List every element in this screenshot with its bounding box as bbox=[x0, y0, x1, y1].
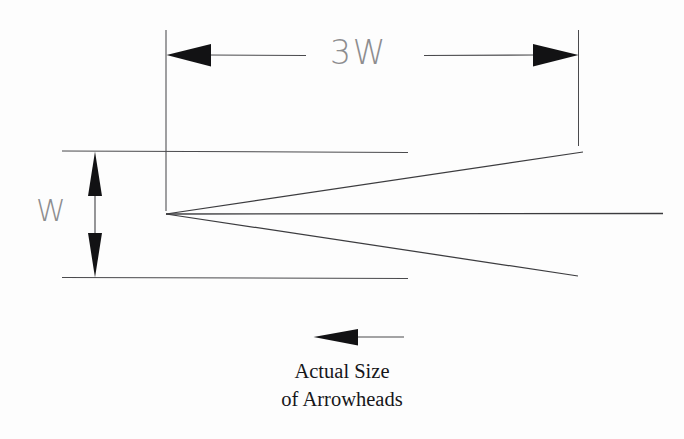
arrow-left-icon bbox=[314, 329, 359, 346]
arrowhead-lower-flank bbox=[166, 214, 578, 276]
arrow-up-icon bbox=[88, 152, 102, 197]
arrow-down-icon bbox=[88, 233, 102, 278]
arrowhead-proportion-diagram: 3W W Actual Size of Arrowheads bbox=[0, 0, 684, 439]
dimension-label-3w: 3W bbox=[330, 36, 387, 69]
caption-line-1: Actual Size bbox=[0, 361, 684, 382]
boundary-line-bottom bbox=[62, 277, 408, 278]
arrowhead-axis-line bbox=[166, 214, 663, 215]
vertical-dimension-group bbox=[62, 151, 408, 278]
boundary-line-top bbox=[62, 151, 408, 152]
dimension-shaft-left bbox=[207, 55, 306, 56]
large-arrowhead-outline bbox=[166, 152, 663, 276]
caption-line-2: of Arrowheads bbox=[0, 389, 684, 410]
dimension-label-w: W bbox=[36, 196, 67, 226]
arrowhead-upper-flank bbox=[166, 152, 583, 214]
arrow-right-icon bbox=[533, 44, 579, 67]
dimension-shaft-right bbox=[424, 55, 534, 56]
arrow-left-icon bbox=[167, 44, 212, 67]
actual-size-arrow-group bbox=[314, 329, 405, 346]
